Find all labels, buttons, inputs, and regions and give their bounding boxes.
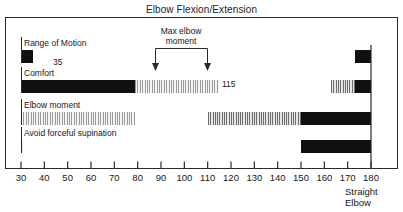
straight-elbow-line1: Straight xyxy=(345,186,378,197)
x-tick-180: 180 xyxy=(351,172,391,183)
chart-container: Elbow Flexion/Extension Range of MotionC… xyxy=(0,0,403,212)
straight-elbow-line2: Elbow xyxy=(345,197,371,208)
